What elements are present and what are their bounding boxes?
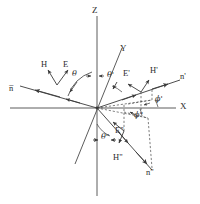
incident-direction-label: n̅ [9, 84, 13, 93]
reflected-E-label: E' [123, 69, 130, 78]
phi-prime-label: ϕ' [155, 95, 163, 103]
incident-E-label: E [63, 60, 68, 69]
reflected-ray-arrow-outer [152, 84, 168, 89]
transmitted-direction-label: n" [146, 168, 154, 177]
incident-ray-arrow-mid [35, 90, 60, 97]
projection-construction [97, 88, 152, 168]
incident-H-label: H [41, 60, 47, 69]
optics-vector-diagram: Z Y X n̅ E H θ θ' E' H' n' ϕ' ϕ" θ" E" H… [0, 0, 200, 204]
theta-double-prime-label: θ" [101, 133, 110, 141]
phi-prime-projection-line [97, 100, 152, 108]
x-axis-label: X [180, 102, 187, 111]
incident-H-vector [48, 70, 57, 85]
transmitted-H-label: H" [113, 153, 123, 162]
incident-ray-group [20, 70, 97, 108]
reflected-E-vector [128, 84, 141, 92]
phi-double-prime-label: ϕ" [134, 111, 143, 119]
incident-ray-arrow-inner [66, 99, 80, 103]
reflected-ray-arrow-mid [122, 95, 136, 100]
transmitted-E-label: E" [115, 126, 124, 135]
reflected-H-label: H' [150, 66, 158, 75]
origin-dot [96, 107, 99, 110]
transmitted-ray-arrow-outer [136, 152, 147, 164]
reflected-ray-group [97, 80, 180, 108]
z-axis-label: Z [92, 6, 98, 15]
theta-arc-arrow-left [70, 82, 77, 92]
theta-label: θ [72, 70, 77, 78]
axis-tick-dots [96, 107, 99, 110]
y-axis-line [75, 48, 122, 164]
theta-prime-label: θ' [107, 71, 114, 79]
incident-E-vector [57, 70, 68, 85]
transmitted-drop-line [148, 118, 152, 168]
reflected-H-vector [141, 80, 149, 92]
y-axis-label: Y [120, 44, 127, 53]
diagram-canvas [0, 0, 200, 204]
reflected-direction-label: n' [180, 72, 186, 81]
phi-prime-arrow [144, 103, 150, 105]
